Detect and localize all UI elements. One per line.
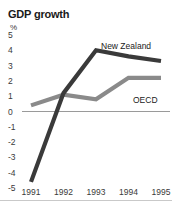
series-line-new-zealand	[31, 50, 161, 182]
bottom-divider	[0, 200, 172, 201]
series-label-oecd: OECD	[133, 96, 158, 105]
gdp-growth-chart: GDP growth % 543210-1-2-3-4-5 1991199219…	[0, 0, 172, 203]
series-label-new-zealand: New Zealand	[101, 42, 151, 51]
